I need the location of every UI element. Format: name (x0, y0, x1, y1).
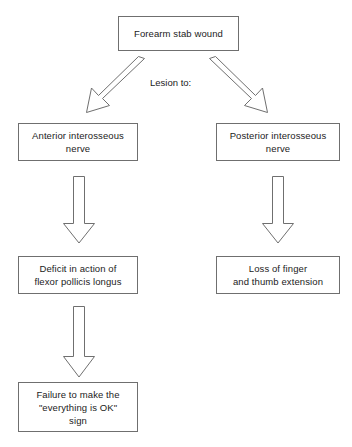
node-deficit-flexor-pollicis-longus: Deficit in action of flexor pollicis lon… (18, 256, 138, 294)
arrow-posterior-nerve-to-deficit (259, 176, 297, 244)
node-posterior-interosseous-nerve: Posterior interosseous nerve (216, 123, 340, 161)
arrow-anterior-nerve-to-deficit (60, 176, 98, 244)
arrow-deficit-to-outcome (60, 306, 98, 378)
node-loss-of-finger-thumb-extension: Loss of finger and thumb extension (216, 256, 340, 294)
flowchart-canvas: Forearm stab wound Lesion to: Anterior i… (0, 0, 352, 447)
node-loss-of-finger-thumb-extension-label: Loss of finger and thumb extension (233, 262, 323, 288)
node-anterior-interosseous-nerve-label: Anterior interosseous nerve (32, 129, 124, 155)
node-failure-everything-is-ok-sign-label: Failure to make the "everything is OK" s… (36, 388, 119, 427)
node-forearm-stab-wound: Forearm stab wound (118, 16, 239, 51)
node-failure-everything-is-ok-sign: Failure to make the "everything is OK" s… (18, 382, 138, 432)
edge-label-lesion-to-text: Lesion to: (150, 77, 191, 88)
node-posterior-interosseous-nerve-label: Posterior interosseous nerve (230, 129, 327, 155)
node-forearm-stab-wound-label: Forearm stab wound (134, 27, 223, 40)
node-deficit-flexor-pollicis-longus-label: Deficit in action of flexor pollicis lon… (34, 262, 121, 288)
node-anterior-interosseous-nerve: Anterior interosseous nerve (18, 123, 138, 161)
arrow-root-to-posterior-nerve (208, 56, 278, 114)
arrow-root-to-anterior-nerve (76, 56, 146, 114)
edge-label-lesion-to: Lesion to: (150, 76, 191, 89)
